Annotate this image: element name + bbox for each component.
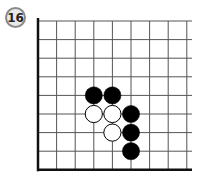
go-board xyxy=(0,0,199,180)
black-stone xyxy=(122,105,139,122)
white-stone xyxy=(104,105,121,122)
black-stone xyxy=(122,143,139,160)
white-stone xyxy=(104,124,121,141)
white-stone xyxy=(85,105,102,122)
black-stone xyxy=(85,87,102,104)
black-stone xyxy=(104,87,121,104)
black-stone xyxy=(122,124,139,141)
